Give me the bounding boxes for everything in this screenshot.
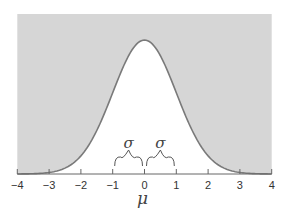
x-tick-label: 3: [237, 179, 243, 191]
x-tick-label: 2: [205, 179, 211, 191]
x-tick-label: −1: [106, 179, 119, 191]
x-tick-label: 4: [269, 179, 275, 191]
x-tick-label: −2: [75, 179, 88, 191]
normal-curve-chart: −4−3−2−101234σσμ: [0, 0, 289, 215]
sigma-label: σ: [155, 134, 166, 152]
sigma-label: σ: [123, 134, 134, 152]
x-tick-label: −4: [11, 179, 24, 191]
x-tick-label: −3: [43, 179, 56, 191]
x-tick-label: 1: [173, 179, 179, 191]
x-axis-label-mu: μ: [137, 188, 148, 208]
